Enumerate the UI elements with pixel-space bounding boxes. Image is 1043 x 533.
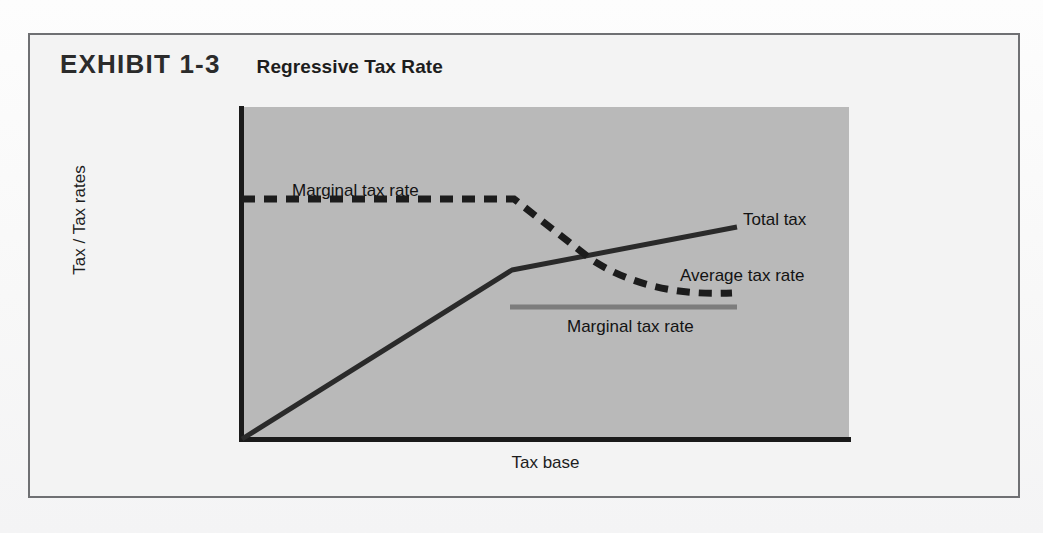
chart-region: Marginal tax rate Total tax Average tax … <box>30 35 1022 500</box>
x-axis-label: Tax base <box>242 453 849 473</box>
y-axis-label: Tax / Tax rates <box>70 120 90 320</box>
page-background: EXHIBIT 1-3 Regressive Tax Rate Marginal… <box>0 0 1043 533</box>
exhibit-frame: EXHIBIT 1-3 Regressive Tax Rate Marginal… <box>28 33 1020 498</box>
annotation-average-tax-rate: Average tax rate <box>680 266 804 286</box>
annotation-marginal-tax-rate-top: Marginal tax rate <box>292 181 419 201</box>
marginal-average-tax-rate-dashed-line <box>242 199 732 293</box>
annotation-total-tax: Total tax <box>743 210 806 230</box>
chart-svg <box>30 35 1022 500</box>
annotation-marginal-tax-rate-legend: Marginal tax rate <box>567 317 694 337</box>
